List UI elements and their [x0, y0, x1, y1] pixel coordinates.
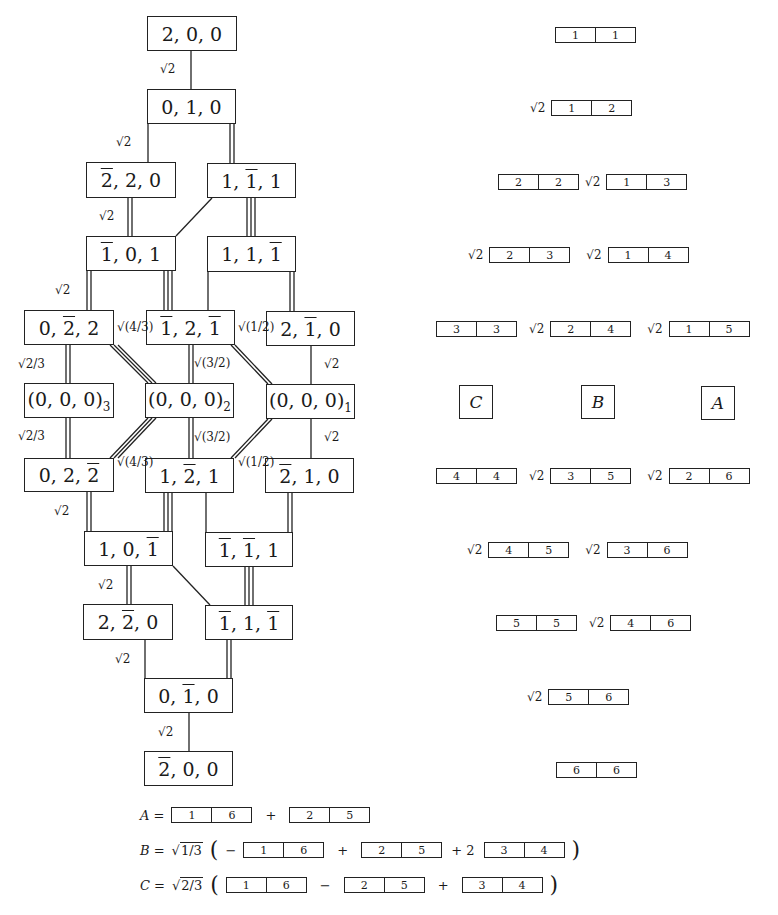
weight-node-000-1: (0, 0, 0)1: [266, 384, 355, 419]
weight-node-m2-1-0: 2, 1, 0: [265, 458, 354, 493]
tableau-row-11: 66: [556, 762, 637, 778]
tableau-box: 16: [226, 877, 307, 893]
tableau-box: 16: [243, 842, 324, 858]
node-label: 1, 0, 1: [98, 538, 158, 560]
tableau-row-8: √2 45 √2 36: [467, 542, 688, 558]
weight-node-m1-0-1: 1, 0, 1: [86, 236, 176, 271]
edge-label-sqrt-4-3: √(4/3): [117, 455, 153, 469]
edge-label-sqrt2: √2: [324, 430, 339, 444]
node-label: 2, 1, 0: [280, 318, 340, 340]
node-label: 2, 2, 0: [98, 611, 158, 633]
node-label: 1, 1, 1: [219, 539, 279, 561]
coefficient: √2: [468, 248, 483, 262]
node-label: 1, 1, 1: [219, 612, 279, 634]
operator: −: [225, 843, 236, 858]
irrep-box-b: B: [581, 385, 615, 419]
tableau-row-10: √2 56: [527, 689, 629, 705]
edge-label-sqrt2: √2: [116, 135, 131, 149]
coefficient: √2: [585, 543, 600, 557]
weight-node-1-1-m1: 1, 1, 1: [207, 236, 296, 272]
equation-a: A = 16 + 25: [140, 806, 370, 824]
node-label: 2, 0, 0: [162, 23, 222, 45]
tableau-box: 36: [607, 542, 688, 558]
tableau-box: 25: [289, 807, 370, 823]
weight-node-m2-2-0: 2, 2, 0: [86, 162, 176, 198]
weight-node-0-1-0: 0, 1, 0: [147, 89, 236, 124]
sqrt-prefactor: √1/3: [172, 842, 203, 858]
tableau-box: 13: [606, 174, 687, 190]
node-label: 2, 2, 0: [101, 169, 161, 191]
tableau-row-7: 44 √2 35 √2 26: [436, 468, 750, 484]
edge-label-sqrt-3-2: √(3/2): [194, 430, 230, 444]
tableau-box: 25: [344, 877, 425, 893]
tableau-box: 34: [462, 877, 543, 893]
edge-label-sqrt2: √2: [98, 578, 113, 592]
tableau-box: 56: [548, 689, 629, 705]
tableau-box: 66: [556, 762, 637, 778]
weight-node-2-m2-0: 2, 2, 0: [83, 604, 173, 640]
edge-label-sqrt2: √2: [160, 62, 175, 76]
node-label: 1, 2, 1: [160, 317, 220, 339]
edge-label-sqrt2: √2: [324, 357, 339, 371]
edge-label-sqrt-2-3: √2/3: [18, 429, 45, 443]
edge-label-sqrt2: √2: [55, 283, 70, 297]
tableau-box: 55: [496, 615, 577, 631]
irrep-box-a: A: [701, 386, 735, 420]
operator: +: [438, 878, 449, 893]
node-label: 1, 2, 1: [159, 465, 219, 487]
edge-label-sqrt2: √2: [158, 725, 173, 739]
edge-label-sqrt-3-2: √(3/2): [194, 356, 230, 370]
weight-node-2-m1-0: 2, 1, 0: [266, 311, 355, 346]
operator: +: [265, 808, 276, 823]
coefficient: √2: [527, 690, 542, 704]
weight-node-m1-2-m1: 1, 2, 1: [146, 310, 235, 345]
tableau-box: 22: [498, 174, 579, 190]
edge-label-sqrt-1-2: √(1/2): [238, 320, 274, 334]
coefficient: √2: [589, 616, 604, 630]
edge-label-sqrt2: √2: [115, 652, 130, 666]
tableau-box: 46: [610, 615, 691, 631]
node-label: (0, 0, 0)3: [28, 388, 111, 414]
weight-node-1-m2-1: 1, 2, 1: [145, 458, 234, 493]
weight-node-000-2: (0, 0, 0)2: [145, 383, 234, 418]
node-label: 2, 0, 0: [158, 758, 218, 780]
node-label: 0, 1, 0: [161, 96, 221, 118]
node-label: 1, 0, 1: [101, 243, 161, 265]
node-label: 0, 1, 0: [158, 685, 218, 707]
tableau-box: 25: [361, 842, 442, 858]
weight-node-2-0-0: 2, 0, 0: [147, 16, 237, 51]
edge-label-sqrt-1-2: √(1/2): [238, 455, 274, 469]
weight-node-0-m2-2: 0, 2, 2: [24, 310, 114, 345]
node-label: (0, 0, 0)2: [148, 388, 231, 414]
operator: + 2: [451, 843, 474, 858]
equation-c: C = √2/3 ( 16 − 25 + 34 ): [140, 876, 558, 894]
tableau-box: 33: [436, 321, 517, 337]
tableau-box: 26: [669, 468, 750, 484]
coefficient: √2: [647, 322, 662, 336]
tableau-box: 12: [551, 100, 632, 116]
tableau-row-2: √2 12: [530, 100, 632, 116]
weight-node-1-m1-1: 1, 1, 1: [207, 163, 296, 198]
weight-node-0-m1-0: 0, 1, 0: [144, 678, 233, 713]
tableau-box: 44: [436, 468, 517, 484]
coefficient: √2: [647, 469, 662, 483]
tableau-box: 35: [550, 468, 631, 484]
weight-node-m2-0-0: 2, 0, 0: [144, 751, 233, 786]
tableau-box: 11: [555, 27, 636, 43]
node-label: 2, 1, 0: [279, 465, 339, 487]
tableau-box: 34: [484, 842, 565, 858]
edge-label-sqrt2: √2: [54, 504, 69, 518]
equation-lhs: C =: [140, 878, 165, 893]
weight-node-m1-m1-1: 1, 1, 1: [205, 532, 293, 567]
edge-label-sqrt-4-3: √(4/3): [117, 320, 153, 334]
node-label: 0, 2, 2: [39, 317, 99, 339]
tableau-row-1: 11: [555, 27, 636, 43]
coefficient: √2: [586, 248, 601, 262]
sqrt-prefactor: √2/3: [172, 877, 203, 893]
tableau-box: 16: [171, 807, 252, 823]
node-label: 1, 1, 1: [221, 170, 281, 192]
tableau-row-5: 33 √2 24 √2 15: [436, 321, 750, 337]
node-label: (0, 0, 0)1: [269, 389, 352, 415]
irrep-box-c: C: [459, 385, 493, 419]
weight-node-1-0-m1: 1, 0, 1: [84, 531, 173, 566]
